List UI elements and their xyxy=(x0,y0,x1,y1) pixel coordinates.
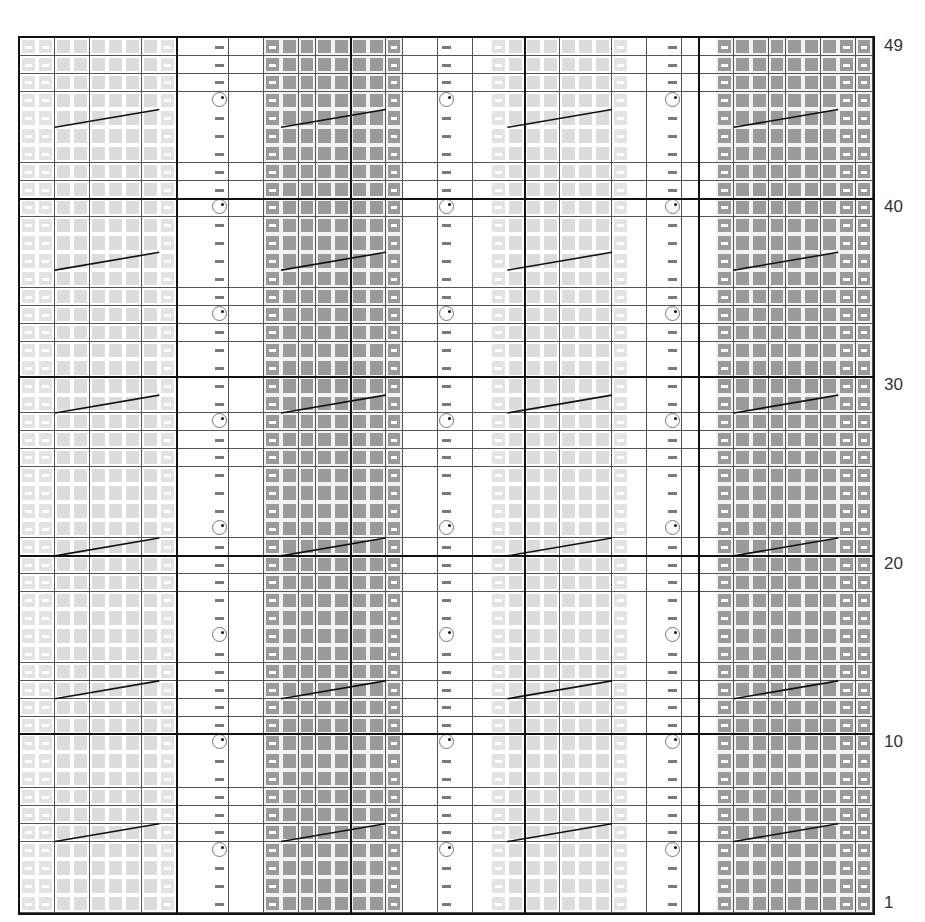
stitch-cell xyxy=(159,609,177,627)
stitch-cell xyxy=(699,752,717,770)
stitch-cell xyxy=(107,734,125,752)
stitch-cell xyxy=(72,859,90,877)
purl-dash-icon xyxy=(269,653,276,656)
purl-dash-icon xyxy=(269,403,276,406)
stitch-cell xyxy=(316,645,334,663)
stitch-cell xyxy=(803,520,821,538)
major-gridline xyxy=(20,555,873,557)
purl-dash-icon xyxy=(42,81,49,84)
stitch-cell xyxy=(507,627,525,645)
stitch-cell xyxy=(560,145,578,163)
stitch-cell xyxy=(838,592,856,610)
stitch-cell xyxy=(438,788,456,806)
purl-dash-icon xyxy=(442,546,451,549)
stitch-cell xyxy=(577,56,595,74)
stitch-cell xyxy=(403,556,421,574)
stitch-cell xyxy=(229,324,247,342)
stitch-cell xyxy=(769,592,787,610)
stitch-cell xyxy=(194,199,212,217)
stitch-cell xyxy=(455,806,473,824)
stitch-cell xyxy=(473,324,491,342)
purl-dash-icon xyxy=(843,224,850,227)
stitch-cell xyxy=(316,449,334,467)
stitch-cell xyxy=(664,609,682,627)
stitch-cell xyxy=(386,449,404,467)
purl-dash-icon xyxy=(495,635,502,638)
stitch-cell xyxy=(107,877,125,895)
stitch-cell xyxy=(333,752,351,770)
purl-dash-icon xyxy=(269,206,276,209)
stitch-cell xyxy=(107,556,125,574)
stitch-cell xyxy=(734,734,752,752)
stitch-cell xyxy=(142,752,160,770)
stitch-cell xyxy=(20,449,38,467)
purl-dash-icon xyxy=(617,867,624,870)
stitch-cell xyxy=(142,484,160,502)
stitch-cell xyxy=(438,574,456,592)
stitch-cell xyxy=(438,538,456,556)
stitch-cell xyxy=(629,449,647,467)
stitch-cell xyxy=(403,127,421,145)
purl-dash-icon xyxy=(269,153,276,156)
stitch-cell xyxy=(490,181,508,199)
stitch-cell xyxy=(420,38,438,56)
stitch-cell xyxy=(751,181,769,199)
stitch-cell xyxy=(177,788,195,806)
stitch-cell xyxy=(107,770,125,788)
stitch-cell xyxy=(386,359,404,377)
stitch-cell xyxy=(142,109,160,127)
purl-dash-icon xyxy=(442,724,451,727)
stitch-cell xyxy=(751,217,769,235)
purl-dash-icon xyxy=(42,46,49,49)
stitch-cell xyxy=(577,734,595,752)
stitch-cell xyxy=(682,699,700,717)
stitch-cell xyxy=(55,163,73,181)
stitch-cell xyxy=(368,877,386,895)
stitch-cell xyxy=(664,127,682,145)
stitch-cell xyxy=(699,234,717,252)
stitch-cell xyxy=(420,270,438,288)
purl-dash-icon xyxy=(164,296,171,299)
stitch-cell xyxy=(821,431,839,449)
stitch-cell xyxy=(194,127,212,145)
purl-dash-icon xyxy=(495,64,502,67)
stitch-cell xyxy=(281,592,299,610)
stitch-cell xyxy=(629,502,647,520)
stitch-cell xyxy=(37,645,55,663)
stitch-cell xyxy=(386,538,404,556)
stitch-cell xyxy=(734,609,752,627)
stitch-cell xyxy=(299,645,317,663)
stitch-cell xyxy=(124,109,142,127)
stitch-cell xyxy=(194,324,212,342)
purl-dash-icon xyxy=(391,581,398,584)
stitch-cell xyxy=(682,556,700,574)
purl-dash-icon xyxy=(25,81,32,84)
purl-dash-icon xyxy=(721,510,728,513)
stitch-cell xyxy=(664,431,682,449)
stitch-cell xyxy=(594,199,612,217)
stitch-cell xyxy=(72,217,90,235)
stitch-cell xyxy=(264,538,282,556)
stitch-cell xyxy=(316,252,334,270)
stitch-cell xyxy=(386,467,404,485)
stitch-cell xyxy=(420,324,438,342)
stitch-cell xyxy=(264,824,282,842)
stitch-cell xyxy=(420,56,438,74)
stitch-cell xyxy=(629,645,647,663)
purl-dash-icon xyxy=(391,492,398,495)
stitch-cell xyxy=(699,199,717,217)
stitch-cell xyxy=(333,538,351,556)
stitch-cell xyxy=(507,842,525,860)
purl-dash-icon xyxy=(391,456,398,459)
stitch-cell xyxy=(507,38,525,56)
purl-dash-icon xyxy=(42,385,49,388)
stitch-cell xyxy=(525,449,543,467)
purl-dash-icon xyxy=(42,474,49,477)
purl-dash-icon xyxy=(391,849,398,852)
stitch-cell xyxy=(368,484,386,502)
stitch-cell xyxy=(438,92,456,110)
purl-dash-icon xyxy=(215,135,224,138)
stitch-cell xyxy=(316,538,334,556)
major-gridline xyxy=(176,38,178,913)
purl-dash-icon xyxy=(843,439,850,442)
